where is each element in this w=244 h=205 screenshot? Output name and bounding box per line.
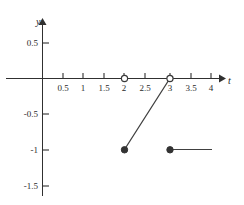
- x-tick-label-1: 1: [81, 84, 86, 93]
- y-tick-label-3: -1.5: [24, 182, 38, 191]
- open-endpoint-t3-marker: [167, 75, 173, 81]
- open-endpoint-t2-marker: [121, 75, 127, 81]
- y-tick-label-2: -1: [31, 146, 39, 155]
- x-tick-label-5: 3: [168, 84, 173, 93]
- x-tick-label-2: 1.5: [98, 84, 109, 93]
- x-tick-label-7: 4: [209, 84, 214, 93]
- y-tick-label-1: -0.5: [24, 110, 38, 119]
- x-axis-label: t: [228, 76, 231, 86]
- y-axis: [39, 18, 47, 196]
- closed-endpoint-t3-marker: [167, 147, 173, 153]
- plot-canvas: [0, 0, 244, 205]
- x-axis-ticks: [63, 73, 211, 78]
- x-tick-label-3: 2: [122, 84, 127, 93]
- y-tick-label-0: 0.5: [27, 39, 38, 48]
- x-tick-label-0: 0.5: [57, 84, 68, 93]
- x-axis: [6, 75, 226, 83]
- x-tick-label-6: 3.5: [185, 84, 196, 93]
- closed-endpoint-t2-marker: [121, 147, 127, 153]
- graph-figure: y t 0.5 1 1.5 2 2.5 3 3.5 4 0.5 -0.5 -1 …: [0, 0, 244, 205]
- y-axis-label: y: [36, 17, 40, 27]
- x-tick-label-4: 2.5: [139, 84, 150, 93]
